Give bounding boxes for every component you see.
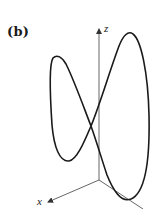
z-axis-label: z	[104, 22, 108, 34]
space-curve	[50, 33, 149, 200]
x-axis	[48, 180, 99, 202]
3d-curve-plot	[0, 0, 160, 209]
figure-panel-b: (b) z x	[0, 0, 160, 209]
x-axis-label: x	[37, 195, 42, 207]
